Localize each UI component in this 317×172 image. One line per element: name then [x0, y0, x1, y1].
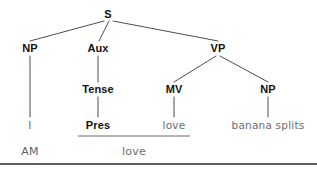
tree-terminal-pres: Pres	[86, 120, 110, 131]
tree-edge-vp-to-mv	[174, 56, 216, 82]
edge-group	[30, 21, 268, 117]
tree-node-aux: Aux	[87, 43, 108, 54]
tree-edge-s-to-aux	[99, 21, 109, 41]
tree-terminal-i: I	[28, 120, 31, 131]
tree-edge-s-to-np1	[30, 21, 104, 41]
tree-node-s: S	[104, 9, 111, 20]
tree-terminal-love1: love	[163, 120, 186, 131]
tree-node-mv: MV	[166, 84, 183, 95]
tree-terminal-am: AM	[21, 146, 39, 157]
tree-node-np1: NP	[22, 43, 37, 54]
tree-edge-s-to-vp	[113, 21, 218, 41]
syntax-tree-diagram: SNPAuxVPTenseMVNPPreslovebanana splitsIA…	[0, 0, 317, 172]
tree-node-np2: NP	[260, 84, 275, 95]
tree-edge-vp-to-np2	[220, 56, 268, 82]
tree-terminal-love2: love	[122, 146, 146, 157]
tree-node-vp: VP	[211, 43, 226, 54]
tree-terminal-banana: banana splits	[232, 120, 305, 131]
tree-node-tense: Tense	[82, 84, 113, 95]
